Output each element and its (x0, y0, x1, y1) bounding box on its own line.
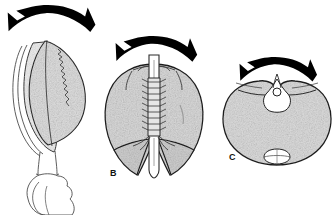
anatomical-figure: B C (0, 0, 333, 215)
panel-b: B (105, 36, 203, 178)
figure-root: B C (0, 0, 333, 215)
panel-label-b: B (110, 168, 117, 178)
panel-c-central-nodule (273, 88, 281, 96)
panel-label-c: C (229, 152, 236, 162)
panel-b-cartilage-column (148, 78, 160, 136)
